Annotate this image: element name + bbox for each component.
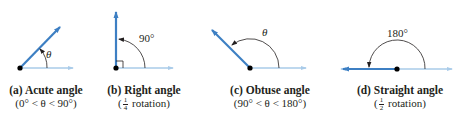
- angle-label: θ: [262, 26, 268, 38]
- terminal-ray: [212, 30, 250, 68]
- panel-a-acute-angle: θ: [17, 27, 73, 71]
- caption-range: (90° < θ < 180°): [220, 97, 320, 109]
- angle-arc: [369, 40, 425, 69]
- caption-d: (d) Straight angle (12 rotation): [350, 84, 450, 112]
- caption-c: (c) Obtuse angle (90° < θ < 180°): [220, 84, 320, 109]
- terminal-ray: [20, 27, 60, 68]
- caption-range: (0° < θ < 90°): [6, 97, 86, 109]
- caption-rotation: (12 rotation): [350, 97, 450, 112]
- panel-b-right-angle: 90°: [113, 12, 173, 71]
- caption-title: (c) Obtuse angle: [220, 84, 320, 96]
- vertex-dot: [17, 65, 22, 70]
- rotation-text: rotation): [129, 97, 170, 109]
- panel-c-obtuse-angle: θ: [212, 26, 306, 71]
- rotation-text: rotation): [385, 97, 426, 109]
- fraction: 14: [123, 97, 129, 112]
- caption-b: (b) Right angle (14 rotation): [104, 84, 184, 112]
- vertex-dot: [394, 66, 399, 71]
- angle-arc: [232, 39, 279, 68]
- angle-label: 180°: [387, 27, 408, 39]
- caption-a: (a) Acute angle (0° < θ < 90°): [6, 84, 86, 109]
- caption-title: (b) Right angle: [104, 84, 184, 96]
- caption-rotation: (14 rotation): [104, 97, 184, 112]
- caption-title: (a) Acute angle: [6, 84, 86, 96]
- panel-d-straight-angle: 180°: [341, 27, 452, 72]
- fraction: 12: [379, 97, 385, 112]
- angle-label: 90°: [139, 32, 154, 44]
- paren-open: (: [374, 97, 378, 109]
- vertex-dot: [247, 65, 252, 70]
- paren-open: (: [118, 97, 122, 109]
- caption-title: (d) Straight angle: [350, 84, 450, 96]
- fraction-denominator: 2: [379, 105, 385, 112]
- fraction-denominator: 4: [123, 105, 129, 112]
- angle-label: θ: [46, 48, 52, 60]
- vertex-dot: [113, 65, 118, 70]
